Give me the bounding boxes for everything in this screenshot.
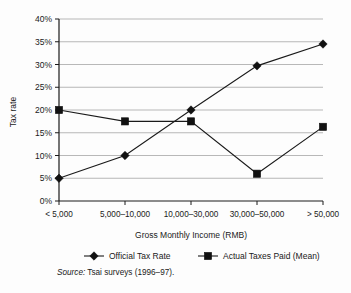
x-axis-title: Gross Monthly Income (RMB): [135, 230, 247, 240]
data-point-diamond: [253, 62, 261, 70]
x-category-label: 30,000–50,000: [230, 210, 285, 219]
source-label: Source:: [57, 268, 85, 277]
data-point-square: [319, 123, 326, 130]
data-point-square: [121, 118, 128, 125]
y-tick-label: 30%: [35, 60, 52, 70]
legend-label-1: Actual Taxes Paid (Mean): [223, 251, 320, 261]
data-point-diamond: [187, 106, 195, 114]
y-tick-label: 25%: [35, 82, 52, 92]
chart-figure: 0%5%10%15%20%25%30%35%40% < 5,0005,000–1…: [0, 0, 351, 293]
y-tick-label: 10%: [35, 151, 52, 161]
y-tick-labels: 0%5%10%15%20%25%30%35%40%: [35, 14, 52, 206]
x-category-label: > 50,000: [307, 210, 340, 219]
source-text: Tsai surveys (1996–97).: [87, 268, 174, 277]
legend-marker-square: [204, 252, 211, 259]
tax-rate-line-chart: 0%5%10%15%20%25%30%35%40% < 5,0005,000–1…: [0, 0, 351, 293]
y-axis-title: Tax rate: [8, 97, 18, 128]
data-point-diamond: [55, 174, 63, 182]
y-tick-label: 35%: [35, 37, 52, 47]
series-layer: [55, 40, 327, 183]
y-tick-label: 15%: [35, 128, 52, 138]
legend-label-0: Official Tax Rate: [109, 251, 171, 261]
x-category-label: 5,000–10,000: [100, 210, 151, 219]
data-point-diamond: [319, 40, 327, 48]
y-tick-label: 5%: [40, 173, 53, 183]
y-tick-label: 20%: [35, 105, 52, 115]
y-tick-label: 0%: [40, 196, 53, 206]
x-category-label: < 5,000: [45, 210, 73, 219]
chart-legend: Official Tax RateActual Taxes Paid (Mean…: [84, 251, 320, 261]
data-point-diamond: [121, 151, 129, 159]
source-note: Source: Tsai surveys (1996–97).: [57, 268, 174, 277]
x-category-label: 10,000–30,000: [164, 210, 219, 219]
data-point-square: [187, 118, 194, 125]
y-tick-label: 40%: [35, 14, 52, 24]
x-tick-marks: [59, 201, 323, 205]
x-category-labels: < 5,0005,000–10,00010,000–30,00030,000–5…: [45, 210, 339, 219]
legend-marker-diamond: [90, 252, 98, 260]
data-point-square: [55, 106, 62, 113]
data-point-square: [253, 170, 260, 177]
